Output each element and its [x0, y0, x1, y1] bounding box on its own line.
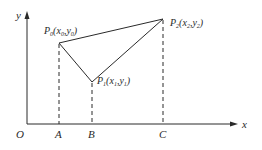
diagram-canvas: y x O A B C P0(x0,y0) P1(x1,y1) P2(x2,y2… [0, 0, 262, 150]
point-a-label: A [54, 128, 62, 140]
p2-label: P2(x2,y2) [169, 17, 204, 29]
x-axis-label: x [241, 118, 247, 130]
x-axis-arrow-icon [230, 122, 238, 127]
p0-label: P0(x0,y0) [43, 25, 78, 37]
point-b-label: B [88, 128, 95, 140]
y-axis-arrow-icon [25, 11, 30, 19]
p1-label: P1(x1,y1) [96, 75, 131, 87]
origin-label: O [16, 128, 24, 140]
point-c-label: C [159, 128, 167, 140]
y-axis-label: y [15, 9, 21, 21]
